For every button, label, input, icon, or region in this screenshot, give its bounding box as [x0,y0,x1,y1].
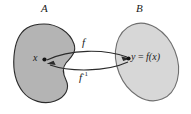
set-b-label: B [136,3,143,14]
arrow-f-inverse-label-superscript: -1 [82,70,88,78]
point-y-label-expr: f(x) [146,51,160,62]
point-x-dot [42,57,46,61]
arrow-f-label: f [82,37,85,48]
point-x-label: x [33,53,37,63]
point-y-label: y = f(x) [131,52,160,62]
function-inverse-diagram: A B x f f-1 y = f(x) [0,0,191,114]
set-b-ellipse [104,14,190,111]
diagram-canvas [0,0,191,114]
point-y-dot [126,56,130,60]
arrow-f-inverse-label: f-1 [79,71,88,83]
point-y-label-equals: = [135,51,146,62]
set-a-blob [14,24,75,103]
set-a-label: A [41,3,48,14]
